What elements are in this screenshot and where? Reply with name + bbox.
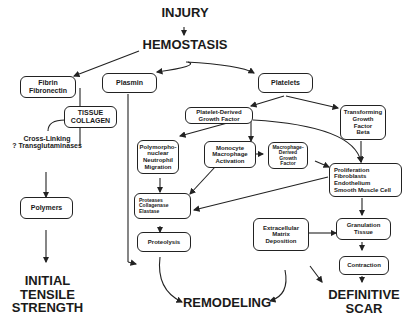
node-cross-linking: Cross-Linking ? Transglutaminases [2,135,92,150]
node-ecm-deposition: Extracellular Matrix Deposition [253,218,309,251]
stage-hemostasis: HEMOSTASIS [130,38,240,52]
title-injury: INJURY [150,6,220,20]
node-platelets: Platelets [258,73,313,93]
node-mdgf: Macrophage- Derived Growth Factor [268,142,308,169]
outcome-definitive-scar: DEFINITIVE SCAR [324,288,404,315]
node-polymers: Polymers [20,197,73,219]
node-proteases: Proteases Collagenase Elastase [134,193,191,219]
node-pdgf: Platelet-Derived Growth Factor [185,107,253,124]
node-proteolysis: Proteolysis [137,232,191,252]
node-fibrin-fibronectin: Fibrin Fibronectin [20,76,76,98]
node-proliferation: Proliferation Fibroblasts Endothelium Sm… [329,163,402,197]
node-tgf-beta: Transforming Growth Factor Beta [340,105,386,140]
node-pmn-migration: Polymorpho- nuclear Neutrophil Migration [137,140,179,174]
node-granulation-tissue: Granulation Tissue [336,218,391,240]
node-plasmin: Plasmin [102,73,157,93]
outcome-remodeling: REMODELING [182,296,272,310]
node-monocyte-activation: Monocyte Macrophage Activation [204,141,256,168]
node-contraction: Contraction [339,256,389,275]
outcome-initial-tensile-strength: INITIAL TENSILE STRENGTH [10,274,85,315]
node-tissue-collagen: TISSUE COLLAGEN [64,106,117,128]
